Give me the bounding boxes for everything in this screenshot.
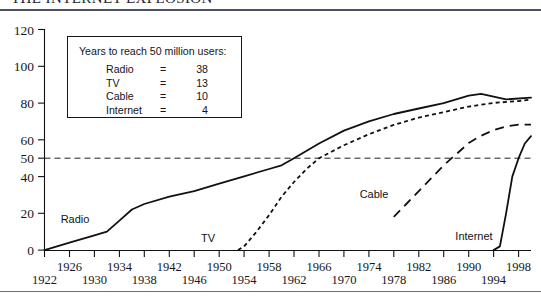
legend-row: Internet = 4	[106, 104, 238, 118]
x-tick-label: 1978	[381, 273, 406, 287]
legend-label: Radio	[106, 63, 160, 75]
footer-divider	[0, 291, 541, 292]
y-tick-label: 120	[14, 23, 35, 38]
legend-equals: =	[160, 63, 180, 75]
legend-value: 4	[180, 104, 208, 116]
series-label-internet: Internet	[455, 230, 492, 242]
x-tick-label: 1994	[481, 273, 507, 287]
y-tick-label: 60	[21, 133, 35, 148]
x-axis-ticks	[45, 251, 519, 258]
legend-equals: =	[160, 104, 180, 116]
legend-box: Years to reach 50 million users: Radio =…	[67, 36, 242, 118]
y-tick-label: 50	[21, 151, 35, 166]
legend-value: 38	[180, 63, 208, 75]
series-line-internet	[494, 136, 531, 250]
series-line-tv	[238, 99, 531, 250]
legend-title: Years to reach 50 million users:	[79, 45, 226, 57]
legend-label: TV	[106, 77, 160, 89]
title-divider	[0, 9, 541, 11]
legend-rows: Radio = 38 TV = 13 Cable = 10 Internet =…	[106, 63, 238, 117]
legend-value: 13	[180, 77, 208, 89]
y-tick-label: 40	[21, 170, 35, 185]
y-axis-ticks	[38, 30, 45, 251]
page-title: THE INTERNET EXPLOSION	[11, 0, 213, 7]
legend-equals: =	[160, 90, 180, 102]
x-tick-label: 1958	[257, 260, 282, 274]
x-tick-label: 1922	[32, 273, 57, 287]
x-tick-label: 1946	[182, 273, 207, 287]
x-tick-label: 1950	[207, 260, 232, 274]
series-label-cable: Cable	[360, 188, 389, 200]
x-tick-label: 1982	[406, 260, 431, 274]
chart-page: THE INTERNET EXPLOSION 120 100 80 60 50 …	[0, 0, 541, 303]
legend-value: 10	[180, 90, 208, 102]
x-tick-label: 1942	[157, 260, 182, 274]
y-tick-label: 100	[14, 59, 35, 74]
x-tick-label: 1974	[356, 260, 382, 274]
title-band: THE INTERNET EXPLOSION	[0, 0, 541, 9]
legend-equals: =	[160, 77, 180, 89]
y-axis-labels: 120 100 80 60 50 40 20 0	[14, 23, 35, 259]
x-tick-label: 1938	[132, 273, 157, 287]
series-line-cable	[394, 125, 531, 217]
y-tick-label: 20	[21, 206, 35, 221]
x-tick-label: 1934	[107, 260, 133, 274]
series-label-tv: TV	[201, 232, 216, 244]
series-label-radio: Radio	[61, 213, 90, 225]
y-tick-label: 0	[27, 243, 34, 258]
x-axis-labels-upper: 1926 1934 1942 1950 1958 1966 1974 1982 …	[57, 260, 531, 274]
legend-row: Radio = 38	[106, 63, 238, 77]
x-axis-labels-lower: 1922 1930 1938 1946 1954 1962 1970 1978 …	[32, 273, 507, 287]
x-tick-label: 1962	[282, 273, 307, 287]
x-tick-label: 1990	[456, 260, 481, 274]
y-tick-label: 80	[21, 96, 35, 111]
x-tick-label: 1998	[506, 260, 531, 274]
legend-label: Cable	[106, 90, 160, 102]
x-tick-label: 1926	[57, 260, 82, 274]
x-tick-label: 1986	[431, 273, 456, 287]
legend-row: Cable = 10	[106, 90, 238, 104]
x-tick-label: 1930	[82, 273, 107, 287]
legend-row: TV = 13	[106, 77, 238, 91]
x-tick-label: 1966	[307, 260, 332, 274]
legend-label: Internet	[106, 104, 160, 116]
x-tick-label: 1970	[331, 273, 356, 287]
x-tick-label: 1954	[232, 273, 258, 287]
